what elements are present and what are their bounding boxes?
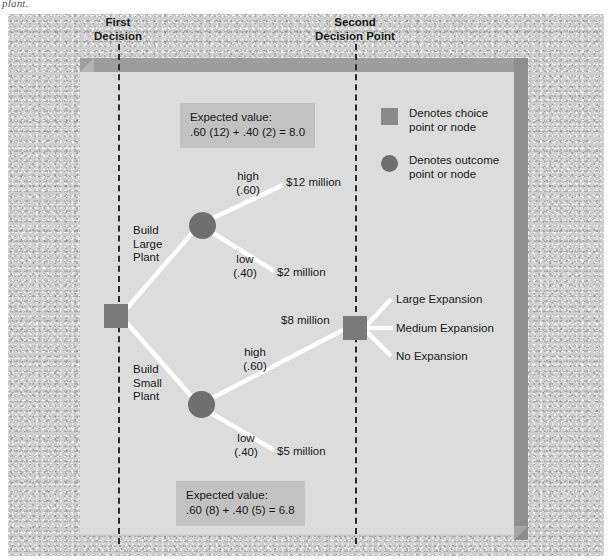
circle-node-icon xyxy=(381,155,398,172)
node-outcome-small-plant[interactable] xyxy=(188,391,215,418)
label-small-high-payoff: $8 million xyxy=(281,314,330,328)
label-large-low-branch: low (.40) xyxy=(222,253,268,280)
expected-value-title-bottom: Expected value: xyxy=(186,488,295,503)
diagram-canvas: plant. First Decision Second Decision Po… xyxy=(0,0,612,560)
label-small-low-branch: low (.40) xyxy=(223,432,269,459)
branch-lines xyxy=(0,0,612,560)
legend: Denotes choice point or node Denotes out… xyxy=(381,106,499,200)
label-large-low-prob: (.40) xyxy=(233,267,257,279)
label-large-low-payoff: $2 million xyxy=(277,266,326,280)
option-medium-expansion[interactable]: Medium Expansion xyxy=(396,322,494,336)
label-large-high-branch: high (.60) xyxy=(225,170,271,197)
legend-label-choice-node: Denotes choice point or node xyxy=(409,106,488,134)
label-large-high-text: high xyxy=(237,170,259,182)
branch-large-expansion xyxy=(367,299,391,325)
node-outcome-large-plant[interactable] xyxy=(189,212,216,239)
option-large-expansion[interactable]: Large Expansion xyxy=(396,293,482,307)
branch-no-expansion xyxy=(367,332,391,356)
square-node-icon xyxy=(381,108,398,125)
expected-value-callout-bottom: Expected value: .60 (8) + .40 (5) = 6.8 xyxy=(176,481,305,526)
label-large-high-payoff: $12 million xyxy=(286,176,341,190)
label-small-low-payoff: $5 million xyxy=(277,445,326,459)
label-small-high-branch: high (.60) xyxy=(232,346,278,373)
label-large-low-text: low xyxy=(236,253,253,265)
label-large-high-prob: (.60) xyxy=(236,184,260,196)
option-no-expansion[interactable]: No Expansion xyxy=(396,350,468,364)
expected-value-formula-bottom: .60 (8) + .40 (5) = 6.8 xyxy=(186,503,295,518)
legend-label-outcome-node: Denotes outcome point or node xyxy=(409,153,499,181)
expected-value-title-top: Expected value: xyxy=(190,110,305,125)
node-first-decision[interactable] xyxy=(104,304,128,328)
expected-value-formula-top: .60 (12) + .40 (2) = 8.0 xyxy=(190,125,305,140)
label-small-high-text: high xyxy=(244,346,266,358)
label-small-high-prob: (.60) xyxy=(243,360,267,372)
legend-item-outcome-node: Denotes outcome point or node xyxy=(381,153,499,181)
label-build-small-plant: Build Small Plant xyxy=(133,363,162,404)
node-second-decision[interactable] xyxy=(343,316,367,340)
label-small-low-text: low xyxy=(237,432,254,444)
expected-value-callout-top: Expected value: .60 (12) + .40 (2) = 8.0 xyxy=(180,103,315,148)
legend-item-choice-node: Denotes choice point or node xyxy=(381,106,499,134)
label-small-low-prob: (.40) xyxy=(234,446,258,458)
label-build-large-plant: Build Large Plant xyxy=(133,224,162,265)
